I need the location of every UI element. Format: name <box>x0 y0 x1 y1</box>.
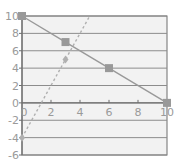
y-tick-label: 4 <box>12 62 19 75</box>
y-tick-label: 10 <box>5 10 19 23</box>
square-marker <box>105 64 113 72</box>
y-tick-label: 8 <box>12 27 19 40</box>
x-tick-label: 6 <box>106 106 113 119</box>
x-tick-label: 10 <box>160 106 174 119</box>
y-tick-label: 2 <box>12 80 19 93</box>
x-tick-label: 0 <box>21 106 28 119</box>
line-chart: 1086420-2-4-60246810 <box>0 0 179 164</box>
y-tick-label: -2 <box>8 114 19 127</box>
y-tick-label: 0 <box>12 97 19 110</box>
square-marker <box>18 12 26 20</box>
x-tick-label: 2 <box>48 106 55 119</box>
x-tick-label: 4 <box>77 106 84 119</box>
y-tick-label: 6 <box>12 45 19 58</box>
x-tick-label: 8 <box>135 106 142 119</box>
y-tick-label: -4 <box>8 132 19 145</box>
y-tick-label: -6 <box>8 149 19 162</box>
square-marker <box>62 38 70 46</box>
